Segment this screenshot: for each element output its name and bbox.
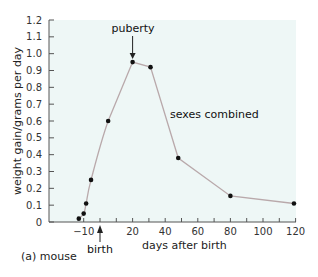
x-tick-label: 20 bbox=[126, 226, 139, 237]
data-point bbox=[292, 201, 297, 206]
y-tick-label: 0.4 bbox=[26, 149, 42, 160]
y-tick-label: 1.1 bbox=[26, 31, 42, 42]
annotation-puberty: puberty bbox=[111, 22, 155, 35]
y-tick-label: 0.6 bbox=[26, 116, 42, 127]
y-tick-label: 1.0 bbox=[26, 48, 42, 59]
data-point bbox=[148, 65, 153, 70]
data-point bbox=[176, 156, 181, 161]
x-axis-title: days after birth bbox=[142, 239, 227, 252]
x-tick-label: 60 bbox=[191, 226, 204, 237]
x-tick-label: 100 bbox=[253, 226, 272, 237]
x-tick-label: 120 bbox=[286, 226, 305, 237]
y-tick-label: 0.9 bbox=[26, 65, 42, 76]
y-tick-label: 0 bbox=[36, 217, 42, 228]
series-label-sexes-combined: sexes combined bbox=[170, 108, 259, 121]
data-point bbox=[84, 201, 89, 206]
data-point bbox=[77, 216, 82, 221]
y-tick-label: 0.3 bbox=[26, 166, 42, 177]
y-tick-label: 0.5 bbox=[26, 132, 42, 143]
data-point bbox=[89, 178, 94, 183]
y-axis-title: weight gain/grams per day bbox=[11, 46, 24, 195]
y-tick-label: 0.8 bbox=[26, 82, 42, 93]
x-tick-label: 40 bbox=[159, 226, 172, 237]
x-tick-label: 80 bbox=[224, 226, 237, 237]
y-tick-label: 0.2 bbox=[26, 183, 42, 194]
y-tick-label: 0.7 bbox=[26, 99, 42, 110]
y-tick-label: 0.1 bbox=[26, 200, 42, 211]
caption: (a) mouse bbox=[21, 250, 77, 263]
annotation-birth: birth bbox=[87, 243, 113, 256]
plot-background bbox=[49, 20, 296, 222]
data-point bbox=[130, 60, 135, 65]
y-tick-label: 1.2 bbox=[26, 15, 42, 26]
data-point bbox=[228, 194, 233, 199]
x-tick-label: −10 bbox=[73, 226, 94, 237]
data-point bbox=[106, 119, 111, 124]
data-point bbox=[81, 211, 86, 216]
chart: 00.10.20.30.40.50.60.70.80.91.01.11.2 −1… bbox=[0, 0, 318, 277]
